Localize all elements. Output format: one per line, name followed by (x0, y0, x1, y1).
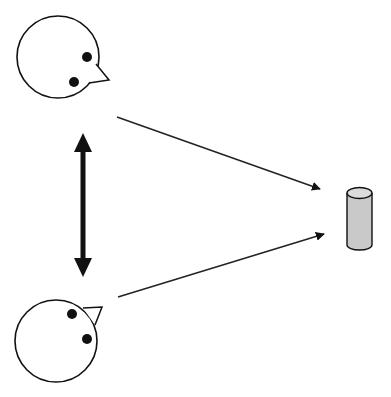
arrowhead-down (74, 258, 92, 277)
cylinder-object (347, 188, 372, 251)
agent-top (17, 16, 109, 98)
agent-top-eye-upper (82, 52, 92, 62)
agent-bottom-eye-upper (67, 309, 77, 319)
bidirectional-arrow (74, 133, 92, 277)
agent-top-eye-lower (69, 77, 79, 87)
arrowhead-up (74, 133, 92, 152)
agent-bottom-eye-lower (82, 334, 92, 344)
joint-attention-diagram (0, 0, 391, 397)
agent-bottom (15, 300, 102, 382)
gaze-arrow-top (117, 117, 320, 189)
gaze-arrow-bottom (118, 234, 324, 297)
